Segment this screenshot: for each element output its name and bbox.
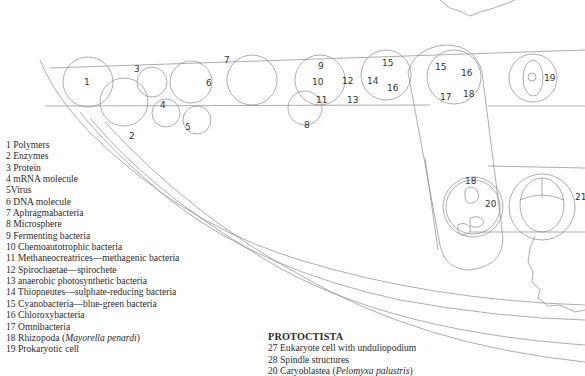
protoctista-legend: PROTOCTISTA 27 Eukaryote cell with undul… [268,331,416,376]
svg-text:17: 17 [440,92,451,102]
svg-text:15: 15 [382,58,393,68]
svg-text:19: 19 [544,73,556,83]
svg-text:9: 9 [318,61,324,71]
legend-item: 4 mRNA molecule [6,173,179,184]
svg-text:4: 4 [160,100,166,110]
svg-text:18: 18 [463,89,475,99]
legend-item: 18 Rhizopoda (Mayorella penardi) [6,332,179,343]
legend-item: 28 Spindle structures [268,354,416,365]
landmass-outline-top [440,0,515,16]
legend-item: 9 Fermenting bacteria [6,230,179,241]
svg-text:13: 13 [347,95,358,105]
legend-item: 15 Cyanobacteria—blue-green bacteria [6,298,179,309]
svg-text:16: 16 [461,68,473,78]
svg-text:11: 11 [316,95,327,105]
legend-item: 14 Thiopneutes—sulphate-reducing bacteri… [6,286,179,297]
legend-item: 12 Spirochaetae—spirochete [6,264,179,275]
svg-text:6: 6 [206,78,212,88]
svg-text:15: 15 [435,62,446,72]
svg-text:20: 20 [485,199,497,209]
legend-item: 5Virus [6,184,179,195]
legend-item: 17 Omnibacteria [6,321,179,332]
legend-item: 27 Eukaryote cell with unduliopodium [268,342,416,353]
svg-text:12: 12 [342,76,353,86]
protoctista-heading: PROTOCTISTA [268,331,416,342]
legend-item: 19 Prokaryotic cell [6,343,179,354]
svg-text:8: 8 [304,120,310,130]
legend-item: 20 Caryoblastea (Pelomyxa palustris) [268,365,416,376]
svg-text:7: 7 [224,55,230,65]
svg-text:5: 5 [185,122,191,132]
svg-text:21: 21 [575,192,585,202]
legend-item: 16 Chloroxybacteria [6,309,179,320]
svg-text:14: 14 [367,76,379,86]
legend: 1 Polymers 2 Enzymes 3 Protein 4 mRNA mo… [6,139,179,355]
legend-item: 7 Aphragmabacteria [6,207,179,218]
legend-item: 8 Microsphere [6,218,179,229]
legend-item: 1 Polymers [6,139,179,150]
legend-item: 13 anaerobic photosynthetic bacteria [6,275,179,286]
legend-item: 10 Chemoautotrophic bacteria [6,241,179,252]
label-1: 1 [84,77,90,87]
svg-text:18: 18 [465,176,477,186]
legend-item: 6 DNA molecule [6,196,179,207]
svg-text:16: 16 [387,83,399,93]
legend-item: 11 Methaneocreatrices—methagenic bacteri… [6,252,179,263]
svg-text:10: 10 [312,77,324,87]
svg-text:3: 3 [134,64,140,74]
legend-item: 3 Protein [6,162,179,173]
legend-item: 2 Enzymes [6,150,179,161]
